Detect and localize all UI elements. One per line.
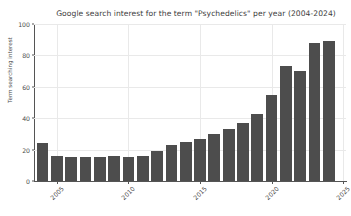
- gridline-horizontal: [34, 24, 346, 25]
- bar: [123, 157, 135, 181]
- bar: [37, 143, 49, 181]
- y-tick-label: 80: [22, 52, 30, 59]
- x-tick-mark: [272, 181, 273, 184]
- bar: [80, 157, 92, 181]
- y-tick-label: 40: [22, 115, 30, 122]
- y-tick-mark: [32, 181, 35, 182]
- plot-area: 020406080100 20052010201520202025: [34, 24, 346, 181]
- bar: [151, 151, 163, 181]
- bar: [180, 142, 192, 181]
- y-tick-mark: [32, 55, 35, 56]
- x-axis-spine: [34, 181, 347, 182]
- x-tick-mark: [200, 181, 201, 184]
- bar: [208, 134, 220, 181]
- bar: [94, 157, 106, 181]
- y-axis-label: Term searching interest: [7, 37, 13, 103]
- y-tick-label: 20: [22, 146, 30, 153]
- bar: [65, 157, 77, 181]
- bar: [194, 139, 206, 181]
- y-tick-mark: [32, 24, 35, 25]
- y-tick-label: 0: [26, 178, 30, 185]
- bar: [280, 66, 292, 181]
- chart-figure: Google search interest for the term "Psy…: [0, 0, 351, 216]
- y-tick-mark: [32, 118, 35, 119]
- y-tick-mark: [32, 149, 35, 150]
- x-tick-mark: [343, 181, 344, 184]
- bar: [108, 156, 120, 181]
- bar: [223, 129, 235, 181]
- bar: [166, 145, 178, 181]
- bar: [137, 156, 149, 181]
- x-tick-label: 2005: [49, 185, 65, 201]
- bar: [251, 114, 263, 182]
- gridline-vertical: [343, 24, 344, 181]
- gridline-horizontal: [34, 55, 346, 56]
- y-tick-label: 100: [18, 21, 30, 28]
- bar: [294, 71, 306, 181]
- x-tick-label: 2020: [263, 185, 279, 201]
- x-tick-label: 2010: [120, 185, 136, 201]
- x-tick-label: 2025: [335, 185, 351, 201]
- x-tick-mark: [57, 181, 58, 184]
- bar: [266, 95, 278, 181]
- bar: [51, 156, 63, 181]
- y-tick-label: 60: [22, 83, 30, 90]
- chart-title: Google search interest for the term "Psy…: [46, 9, 346, 18]
- bar: [309, 43, 321, 181]
- x-tick-label: 2015: [192, 185, 208, 201]
- bar: [237, 123, 249, 181]
- y-tick-mark: [32, 86, 35, 87]
- x-tick-mark: [128, 181, 129, 184]
- bar: [323, 41, 335, 181]
